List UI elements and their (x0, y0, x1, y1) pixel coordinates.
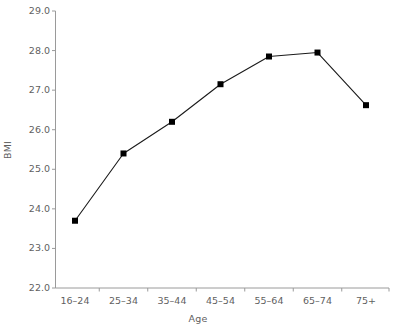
data-point-marker (169, 119, 175, 125)
bmi-by-age-line-chart: BMI Age 29.028.027.026.025.024.023.022.0… (0, 0, 396, 333)
data-markers (72, 50, 369, 224)
data-point-marker (363, 102, 369, 108)
plot-area (0, 0, 396, 333)
x-axis-ticks (99, 288, 389, 292)
data-point-marker (72, 218, 78, 224)
axis-lines (56, 11, 390, 288)
y-axis-ticks (52, 11, 56, 288)
data-line (75, 53, 366, 221)
data-point-marker (218, 81, 224, 87)
data-point-marker (121, 150, 127, 156)
data-point-marker (315, 50, 321, 56)
data-point-marker (266, 54, 272, 60)
